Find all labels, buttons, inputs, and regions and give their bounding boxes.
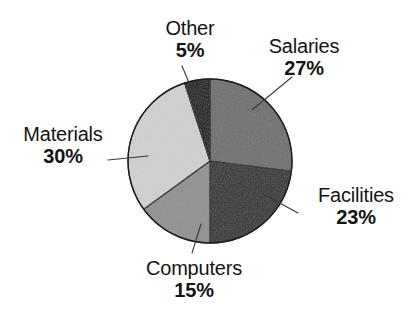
leader-line-salaries [252, 77, 292, 110]
pie-chart-figure: Other 5% Salaries 27% Facilities 23% Com… [0, 0, 416, 329]
slice-label-facilities-name: Facilities [300, 185, 412, 207]
slice-label-other-value: 5% [140, 40, 240, 62]
slice-label-materials-name: Materials [4, 124, 122, 146]
slice-label-other: Other 5% [140, 18, 240, 61]
slice-label-facilities-value: 23% [300, 207, 412, 229]
slice-label-salaries: Salaries 27% [248, 36, 360, 79]
slice-label-facilities: Facilities 23% [300, 185, 412, 228]
pie-slice-salaries[interactable] [210, 79, 292, 171]
slice-label-materials-value: 30% [4, 146, 122, 168]
slice-label-computers-value: 15% [124, 280, 264, 302]
slice-label-computers-name: Computers [124, 258, 264, 280]
slice-label-salaries-name: Salaries [248, 36, 360, 58]
slice-label-salaries-value: 27% [248, 58, 360, 80]
slice-label-computers: Computers 15% [124, 258, 264, 301]
pie-slice-facilities[interactable] [210, 161, 291, 243]
slice-label-other-name: Other [140, 18, 240, 40]
slice-label-materials: Materials 30% [4, 124, 122, 167]
